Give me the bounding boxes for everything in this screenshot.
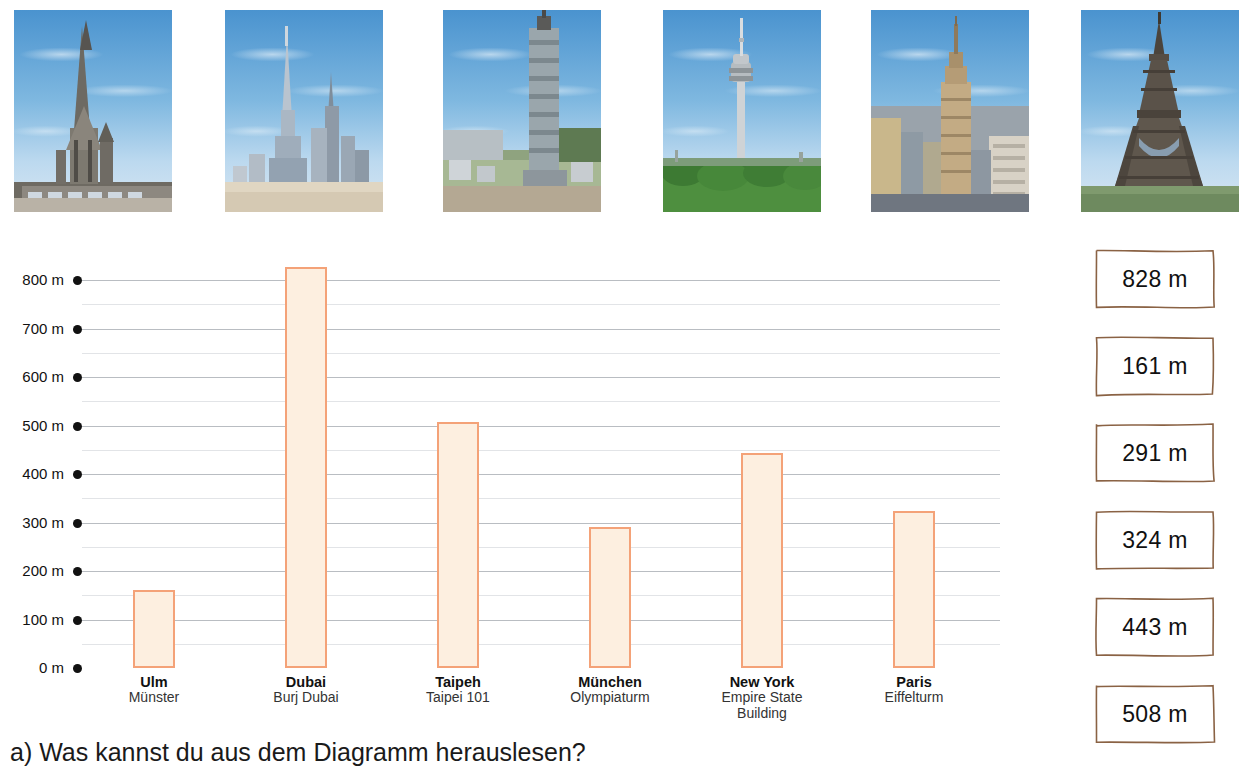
value-box[interactable]: 324 m xyxy=(1094,509,1216,571)
axis-tick-dot xyxy=(73,519,82,528)
value-box[interactable]: 291 m xyxy=(1094,422,1216,484)
gridline-minor xyxy=(82,401,1000,402)
x-axis-building-name: Olympiaturm xyxy=(530,690,690,706)
bar xyxy=(285,267,327,668)
photo-strip xyxy=(0,0,1252,222)
taipei-101-photo xyxy=(443,10,601,212)
gridline-minor xyxy=(82,498,1000,499)
x-axis-city-name: New York xyxy=(682,674,842,690)
taipei-101-silhouette xyxy=(443,10,601,212)
value-box-label: 508 m xyxy=(1094,683,1216,745)
bar xyxy=(893,511,935,668)
value-box-label: 161 m xyxy=(1094,335,1216,397)
value-box-label: 828 m xyxy=(1094,248,1216,310)
bar xyxy=(437,422,479,668)
empire-state-building-photo xyxy=(871,10,1029,212)
x-axis-label: DubaiBurj Dubai xyxy=(226,674,386,706)
axis-tick-dot xyxy=(73,276,82,285)
value-box-label: 443 m xyxy=(1094,596,1216,658)
x-axis-city-name: Taipeh xyxy=(378,674,538,690)
y-axis-tick-label: 500 m xyxy=(0,417,64,434)
y-axis-tick-label: 300 m xyxy=(0,514,64,531)
value-box-label: 324 m xyxy=(1094,509,1216,571)
axis-tick-dot xyxy=(73,325,82,334)
x-axis-label: ParisEiffelturm xyxy=(834,674,994,706)
olympiaturm-photo xyxy=(663,10,821,212)
axis-tick-dot xyxy=(73,373,82,382)
gridline-minor xyxy=(82,304,1000,305)
eiffelturm-silhouette xyxy=(1081,10,1239,212)
question-text: a) Was kannst du aus dem Diagramm heraus… xyxy=(10,738,586,767)
x-axis-city-name: Paris xyxy=(834,674,994,690)
gridline-major xyxy=(82,329,1000,330)
axis-tick-dot xyxy=(73,567,82,576)
ulm-muenster-photo xyxy=(14,10,172,212)
burj-dubai-silhouette xyxy=(225,10,383,212)
axis-tick-dot xyxy=(73,422,82,431)
x-axis-building-name: Burj Dubai xyxy=(226,690,386,706)
x-axis-city-name: Ulm xyxy=(74,674,234,690)
olympiaturm-silhouette xyxy=(663,10,821,212)
x-axis-building-name: Münster xyxy=(74,690,234,706)
bar-chart: 800 m700 m600 m500 m400 m300 m200 m100 m… xyxy=(0,222,1050,682)
bar xyxy=(133,590,175,668)
gridline-minor xyxy=(82,595,1000,596)
value-box[interactable]: 508 m xyxy=(1094,683,1216,745)
axis-tick-dot xyxy=(73,470,82,479)
value-box-label: 291 m xyxy=(1094,422,1216,484)
bar xyxy=(741,453,783,668)
gridline-major xyxy=(82,426,1000,427)
gridline-major xyxy=(82,377,1000,378)
y-axis-tick-label: 800 m xyxy=(0,271,64,288)
x-axis-building-name: Eiffelturm xyxy=(834,690,994,706)
x-axis-building-name: Empire State Building xyxy=(710,690,814,721)
y-axis-tick-label: 0 m xyxy=(0,659,64,676)
axis-tick-dot xyxy=(73,664,82,673)
gridline-major xyxy=(82,523,1000,524)
gridline-major xyxy=(82,571,1000,572)
x-axis-city-name: Dubai xyxy=(226,674,386,690)
x-axis-label: UlmMünster xyxy=(74,674,234,706)
value-box[interactable]: 828 m xyxy=(1094,248,1216,310)
x-axis-label: MünchenOlympiaturm xyxy=(530,674,690,706)
value-box-list: 828 m161 m291 m324 m443 m508 m xyxy=(1094,248,1224,768)
burj-dubai-photo xyxy=(225,10,383,212)
gridline-minor xyxy=(82,353,1000,354)
bar xyxy=(589,527,631,668)
value-box[interactable]: 443 m xyxy=(1094,596,1216,658)
empire-state-building-silhouette xyxy=(871,10,1029,212)
gridline-major xyxy=(82,474,1000,475)
eiffelturm-photo xyxy=(1081,10,1239,212)
plot-area: 800 m700 m600 m500 m400 m300 m200 m100 m… xyxy=(82,256,1000,668)
gridline-major xyxy=(82,280,1000,281)
x-axis-label: TaipehTaipei 101 xyxy=(378,674,538,706)
gridline-minor xyxy=(82,644,1000,645)
y-axis-tick-label: 400 m xyxy=(0,465,64,482)
x-axis-label: New YorkEmpire State Building xyxy=(682,674,842,722)
gridline-major xyxy=(82,620,1000,621)
x-axis-city-name: München xyxy=(530,674,690,690)
value-box[interactable]: 161 m xyxy=(1094,335,1216,397)
y-axis-tick-label: 200 m xyxy=(0,562,64,579)
ulm-muenster-silhouette xyxy=(14,10,172,212)
gridline-minor xyxy=(82,450,1000,451)
axis-tick-dot xyxy=(73,616,82,625)
y-axis-tick-label: 700 m xyxy=(0,320,64,337)
gridline-minor xyxy=(82,547,1000,548)
y-axis-tick-label: 100 m xyxy=(0,611,64,628)
y-axis-tick-label: 600 m xyxy=(0,368,64,385)
x-axis-building-name: Taipei 101 xyxy=(378,690,538,706)
